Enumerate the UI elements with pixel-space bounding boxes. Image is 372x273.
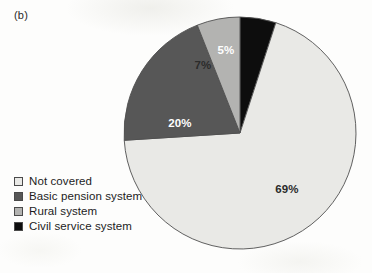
legend-swatch-basic-pension-system — [14, 192, 23, 201]
pie-slice-label: 20% — [168, 117, 191, 129]
legend-swatch-civil-service-system — [14, 222, 23, 231]
legend-item[interactable]: Rural system — [14, 204, 164, 219]
pie-slice-label: 7% — [195, 59, 212, 71]
legend: Not covered Basic pension system Rural s… — [14, 174, 164, 234]
pie-slice-label: 69% — [275, 183, 298, 195]
figure-panel-b: (b) 5%69%20%7% Not covered Basic pension… — [0, 0, 372, 273]
legend-item[interactable]: Civil service system — [14, 219, 164, 234]
pie-slice-label: 5% — [218, 44, 235, 56]
legend-label: Rural system — [29, 205, 97, 217]
legend-label: Civil service system — [29, 220, 132, 232]
legend-label: Not covered — [29, 175, 92, 187]
legend-item[interactable]: Not covered — [14, 174, 164, 189]
legend-swatch-rural-system — [14, 207, 23, 216]
legend-label: Basic pension system — [29, 190, 142, 202]
legend-swatch-not-covered — [14, 177, 23, 186]
legend-item[interactable]: Basic pension system — [14, 189, 164, 204]
